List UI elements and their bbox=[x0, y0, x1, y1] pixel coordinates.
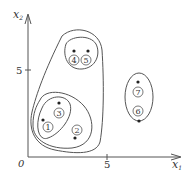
data-point-2 bbox=[73, 136, 76, 139]
cluster-outline-1-3 bbox=[38, 97, 71, 139]
data-point-5 bbox=[86, 49, 89, 52]
data-point-7 bbox=[136, 80, 139, 83]
origin-label: 0 bbox=[18, 158, 25, 169]
point-label-3: 3 bbox=[56, 109, 61, 118]
data-point-3 bbox=[57, 101, 60, 104]
point-label-1: 1 bbox=[45, 123, 50, 132]
x-tick-label: 5 bbox=[104, 159, 110, 170]
data-point-6 bbox=[137, 119, 140, 122]
point-label-4: 4 bbox=[71, 56, 76, 65]
point-label-2: 2 bbox=[74, 126, 79, 135]
x-axis-label: x1 bbox=[172, 158, 182, 171]
cluster-diagram: x2 x1 0 5 5 4 5 bbox=[0, 0, 192, 178]
cluster-outline-1-5 bbox=[31, 30, 103, 153]
data-point-1 bbox=[41, 118, 44, 121]
y-axis-label: x2 bbox=[13, 8, 23, 21]
point-label-5: 5 bbox=[83, 56, 88, 65]
data-point-4 bbox=[72, 49, 75, 52]
cluster-outline-4-5 bbox=[65, 37, 98, 69]
point-label-7: 7 bbox=[135, 88, 140, 97]
point-label-6: 6 bbox=[135, 107, 140, 116]
y-tick-label: 5 bbox=[16, 65, 22, 76]
